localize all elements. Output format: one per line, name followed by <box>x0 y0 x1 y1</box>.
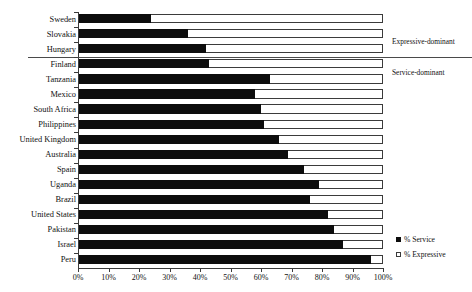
x-axis-tick <box>292 268 293 272</box>
bar-service <box>78 59 209 68</box>
bar-row: South Africa <box>78 102 383 117</box>
x-axis-tick <box>139 268 140 272</box>
y-axis-category-label: Brazil <box>56 196 76 204</box>
x-axis-tick-label: 30% <box>162 274 177 282</box>
legend-item: % Service <box>396 236 446 244</box>
hollow-square-icon <box>396 252 401 257</box>
x-axis-tick-label: 0% <box>73 274 84 282</box>
x-axis-tick <box>383 268 384 272</box>
x-axis-tick <box>353 268 354 272</box>
y-axis-tick <box>74 27 78 28</box>
x-axis-tick-label: 80% <box>315 274 330 282</box>
bar-row: Brazil <box>78 193 383 208</box>
bar-service <box>78 74 270 83</box>
y-axis-category-label: Australia <box>45 151 76 159</box>
bar-row: Finland <box>78 57 383 72</box>
bar-service <box>78 180 319 189</box>
x-axis-tick-label: 10% <box>101 274 116 282</box>
legend-label: % Service <box>404 236 435 244</box>
y-axis-tick <box>74 193 78 194</box>
bar-service <box>78 120 264 129</box>
bar-row: Australia <box>78 148 383 163</box>
y-axis-category-label: Uganda <box>50 181 76 189</box>
bar-service <box>78 150 288 159</box>
bar-row: United Kingdom <box>78 132 383 147</box>
y-axis-tick <box>74 132 78 133</box>
legend-label: % Expressive <box>404 251 446 259</box>
y-axis-category-label: Israel <box>57 241 76 249</box>
y-axis-line <box>78 12 79 268</box>
bar-row: Spain <box>78 163 383 178</box>
y-axis-tick <box>74 148 78 149</box>
plot-area: SwedenSlovakiaHungaryFinlandTanzaniaMexi… <box>78 12 383 268</box>
x-axis-tick <box>231 268 232 272</box>
y-axis-category-label: Mexico <box>50 91 76 99</box>
bar-row: United States <box>78 208 383 223</box>
y-axis-category-label: Sweden <box>49 15 76 23</box>
bar-row: Tanzania <box>78 72 383 87</box>
y-axis-category-label: South Africa <box>33 106 76 114</box>
bar-row: Sweden <box>78 12 383 27</box>
bar-service <box>78 135 279 144</box>
y-axis-category-label: United States <box>31 211 76 219</box>
annotation-service-dominant: Service-dominant <box>392 69 445 76</box>
y-axis-tick <box>74 253 78 254</box>
y-axis-tick <box>74 102 78 103</box>
y-axis-tick <box>74 238 78 239</box>
x-axis-tick <box>170 268 171 272</box>
bar-row: Pakistan <box>78 223 383 238</box>
y-axis-category-label: Spain <box>57 166 76 174</box>
x-axis-tick <box>200 268 201 272</box>
y-axis-tick <box>74 42 78 43</box>
group-divider-line <box>28 57 472 58</box>
bar-row: Mexico <box>78 87 383 102</box>
y-axis-category-label: Hungary <box>47 45 76 53</box>
y-axis-tick <box>74 208 78 209</box>
filled-square-icon <box>396 237 401 242</box>
y-axis-category-label: Slovakia <box>47 30 76 38</box>
y-axis-category-label: United Kingdom <box>19 136 76 144</box>
bar-chart: SwedenSlovakiaHungaryFinlandTanzaniaMexi… <box>0 0 472 292</box>
bar-service <box>78 165 304 174</box>
y-axis-tick <box>74 87 78 88</box>
bar-row: Israel <box>78 238 383 253</box>
bar-service <box>78 104 261 113</box>
x-axis-tick-label: 70% <box>284 274 299 282</box>
bar-service <box>78 89 255 98</box>
y-axis-tick <box>74 72 78 73</box>
bar-service <box>78 29 188 38</box>
bar-service <box>78 195 310 204</box>
y-axis-category-label: Finland <box>50 60 76 68</box>
bar-service <box>78 44 206 53</box>
y-axis-category-label: Philippines <box>38 121 76 129</box>
bar-row: Uganda <box>78 178 383 193</box>
bar-service <box>78 255 371 264</box>
y-axis-tick <box>74 178 78 179</box>
y-axis-tick <box>74 12 78 13</box>
bar-service <box>78 240 343 249</box>
x-axis-tick-label: 90% <box>345 274 360 282</box>
x-axis-tick-label: 50% <box>223 274 238 282</box>
y-axis-tick <box>74 117 78 118</box>
bar-service <box>78 210 328 219</box>
y-axis-tick <box>74 57 78 58</box>
y-axis-tick <box>74 163 78 164</box>
bar-row: Peru <box>78 253 383 268</box>
bar-service <box>78 14 151 23</box>
bar-service <box>78 225 334 234</box>
annotation-expressive-dominant: Expressive-dominant <box>392 38 455 45</box>
y-axis-category-label: Pakistan <box>48 226 76 234</box>
x-axis-tick <box>261 268 262 272</box>
y-axis-category-label: Tanzania <box>46 76 76 84</box>
x-axis-tick-label: 40% <box>193 274 208 282</box>
bar-row: Philippines <box>78 117 383 132</box>
y-axis-tick <box>74 223 78 224</box>
x-axis-tick-label: 20% <box>132 274 147 282</box>
x-axis-tick <box>109 268 110 272</box>
chart-legend: % Service% Expressive <box>396 236 446 265</box>
legend-item: % Expressive <box>396 251 446 259</box>
bar-row: Hungary <box>78 42 383 57</box>
bar-row: Slovakia <box>78 27 383 42</box>
x-axis-tick <box>322 268 323 272</box>
x-axis-tick-label: 60% <box>254 274 269 282</box>
